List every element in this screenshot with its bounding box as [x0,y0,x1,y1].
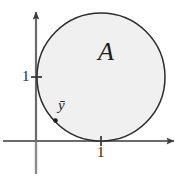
y-bar-point-marker [53,118,58,123]
x-axis-tick-label-1: 1 [97,145,105,160]
coordinate-figure [0,0,183,177]
y-axis-tick-label-1: 1 [22,69,30,84]
region-label-a: A [98,39,114,65]
y-bar-label: ȳ [58,98,65,113]
figure-container: A ȳ 1 1 [0,0,183,177]
